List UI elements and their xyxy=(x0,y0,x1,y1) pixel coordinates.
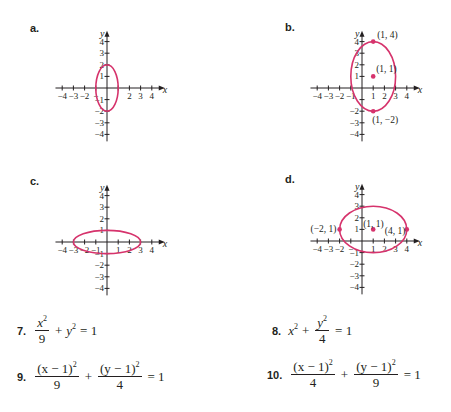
graph-b: −4−3−2−11234−4−3−21234xy(1, 4)(1, 1)(1, … xyxy=(310,28,422,142)
y-tick-label: −3 xyxy=(349,118,359,128)
fraction: (x − 1)2 9 xyxy=(35,362,79,392)
x-tick-label: 3 xyxy=(138,91,143,101)
x-tick-label: −4 xyxy=(312,244,322,254)
fraction: (x − 1)2 4 xyxy=(291,360,335,390)
x-tick-label: −4 xyxy=(312,91,322,101)
graph-label-d: d. xyxy=(285,173,295,185)
point-marker xyxy=(337,227,342,232)
y-axis-label: y xyxy=(99,28,105,39)
equation-7: 7. x2 9 + y2 = 1 xyxy=(17,316,101,346)
x-tick-label: −2 xyxy=(335,244,345,254)
point-label: (−2, 1) xyxy=(311,224,337,235)
graph-d: −4−3−2−1234−4−3−2−11234xy(−2, 1)(1, 1)(4… xyxy=(310,181,422,295)
fraction: x2 9 xyxy=(35,316,49,346)
y-tick-label: −4 xyxy=(349,282,359,292)
equation-number: 7. xyxy=(17,325,26,337)
x-axis-label: x xyxy=(417,237,423,248)
axes xyxy=(55,189,160,296)
y-tick-label: 1 xyxy=(355,224,360,234)
axes xyxy=(310,188,415,295)
graph-c: −4−3−2−11234−4−3−2−11234xy xyxy=(55,182,167,296)
equation-10: 10. (x − 1)2 4 + (y − 1)2 9 = 1 xyxy=(267,360,425,390)
equation-9: 9. (x − 1)2 9 + (y − 1)2 4 = 1 xyxy=(17,362,169,392)
y-arrow-icon xyxy=(105,31,110,37)
y-tick-label: −2 xyxy=(349,259,359,269)
fraction: y2 4 xyxy=(315,316,329,346)
graph-a: −4−3−2−234−4−3−2−11234xy xyxy=(55,28,167,142)
point-label: (1, −2) xyxy=(372,115,398,126)
y-arrow-icon xyxy=(105,185,110,191)
graphs-canvas: −4−3−2−234−4−3−2−11234xy−4−3−2−11234−4−3… xyxy=(0,0,451,330)
y-arrow-icon xyxy=(360,31,365,37)
x-tick-label: −4 xyxy=(57,91,67,101)
y-tick-label: −2 xyxy=(94,106,104,116)
y-tick-label: 3 xyxy=(100,48,105,58)
x-tick-label: −4 xyxy=(57,245,67,255)
fraction: (y − 1)2 9 xyxy=(354,360,398,390)
x-tick-label: 2 xyxy=(382,91,387,101)
x-axis-label: x xyxy=(162,238,168,249)
point-label: (4, 1) xyxy=(385,226,406,237)
point-label: (1, 1) xyxy=(363,219,384,230)
y-tick-label: 2 xyxy=(100,214,105,224)
y-tick-label: −4 xyxy=(349,129,359,139)
point-marker xyxy=(371,39,376,44)
y-tick-label: −3 xyxy=(94,118,104,128)
y-tick-label: 1 xyxy=(100,71,105,81)
axes xyxy=(55,35,160,142)
equation-8: 8. x2 + y2 4 = 1 xyxy=(272,316,356,346)
y-tick-label: −3 xyxy=(94,272,104,282)
y-tick-label: 2 xyxy=(355,213,360,223)
graph-label-c: c. xyxy=(30,175,39,187)
y-tick-label: −3 xyxy=(349,271,359,281)
y-axis-label: y xyxy=(354,28,360,39)
exercise-page: −4−3−2−234−4−3−2−11234xy−4−3−2−11234−4−3… xyxy=(0,0,451,412)
y-tick-label: 3 xyxy=(100,202,105,212)
x-tick-label: 4 xyxy=(405,91,410,101)
y-tick-label: −4 xyxy=(94,283,104,293)
point-label: (1, 4) xyxy=(377,30,398,41)
graph-label-a: a. xyxy=(30,22,39,34)
x-tick-label: 4 xyxy=(405,244,410,254)
equation-number: 10. xyxy=(267,369,282,381)
y-tick-label: 2 xyxy=(355,60,360,70)
axes xyxy=(310,35,415,142)
y-tick-label: −2 xyxy=(94,260,104,270)
y-tick-label: −4 xyxy=(94,129,104,139)
equation-number: 8. xyxy=(272,325,281,337)
graph-label-b: b. xyxy=(285,21,295,33)
x-axis-label: x xyxy=(417,84,423,95)
point-marker xyxy=(371,109,376,114)
x-tick-label: 2 xyxy=(127,91,132,101)
x-tick-label: −3 xyxy=(324,244,334,254)
x-tick-label: −3 xyxy=(69,91,79,101)
y-tick-label: −2 xyxy=(349,106,359,116)
x-tick-label: −2 xyxy=(335,91,345,101)
y-tick-label: 1 xyxy=(355,71,360,81)
x-tick-label: 4 xyxy=(150,91,155,101)
x-tick-label: 1 xyxy=(371,91,376,101)
x-tick-label: −3 xyxy=(324,91,334,101)
y-arrow-icon xyxy=(360,184,365,190)
x-tick-label: −2 xyxy=(80,91,90,101)
point-marker xyxy=(371,74,376,79)
equation-number: 9. xyxy=(17,371,26,383)
y-axis-label: y xyxy=(354,181,360,192)
x-tick-label: 3 xyxy=(393,91,398,101)
point-label: (1, 1) xyxy=(376,64,397,75)
x-axis-label: x xyxy=(162,84,168,95)
x-tick-label: 4 xyxy=(150,245,155,255)
fraction: (y − 1)2 4 xyxy=(98,362,142,392)
y-axis-label: y xyxy=(99,182,105,193)
